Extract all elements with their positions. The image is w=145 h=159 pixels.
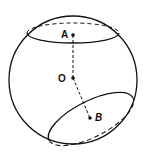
point-A xyxy=(71,33,75,37)
point-B xyxy=(88,116,92,120)
label-B: B xyxy=(95,112,102,123)
label-O: O xyxy=(58,73,66,84)
point-O xyxy=(71,76,75,80)
label-A: A xyxy=(61,29,68,40)
sphere-diagram: A O B xyxy=(0,0,145,159)
bottom-circle-back xyxy=(49,98,141,157)
segment-O-B xyxy=(73,78,90,118)
